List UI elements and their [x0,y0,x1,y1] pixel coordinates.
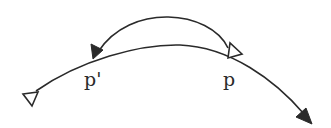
open-triangle-tail-icon [23,92,38,106]
diagram-canvas: p' p [0,0,331,128]
main-curve [36,45,304,114]
return-arc [98,17,228,52]
diagram-svg [0,0,331,128]
label-p: p [223,70,235,89]
open-triangle-at-p-icon [228,43,242,58]
label-p-prime: p' [84,70,101,89]
arrowhead-end-icon [296,108,312,124]
